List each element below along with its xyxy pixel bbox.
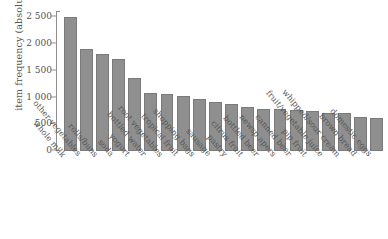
x-axis-tick-labels: whole milkother vegetablesrolls/bunssoda… bbox=[62, 152, 388, 239]
y-axis-tick-mark bbox=[51, 96, 56, 97]
bar bbox=[370, 118, 383, 151]
y-axis-tick-label: 1 500 bbox=[14, 65, 52, 75]
y-axis-tick-label: 1 000 bbox=[14, 92, 52, 102]
y-axis-tick-label: 2 000 bbox=[14, 38, 52, 48]
y-axis-tick-mark bbox=[51, 16, 56, 17]
item-frequency-bar-chart: item frequency (absolute) 05001 0001 500… bbox=[0, 0, 388, 239]
y-axis-tick-mark bbox=[51, 69, 56, 70]
y-axis-tick-mark bbox=[51, 43, 56, 44]
y-axis-cap-top bbox=[56, 11, 60, 12]
y-axis-tick-label: 0 bbox=[14, 145, 52, 155]
y-axis-tick-label: 2 500 bbox=[14, 11, 52, 21]
clipped-caption bbox=[0, 234, 388, 239]
